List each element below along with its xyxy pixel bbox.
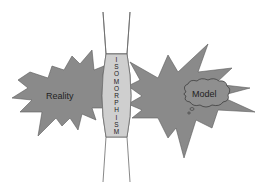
bridge-letter: R (114, 92, 119, 99)
isomorphism-vertical-label: ISOMORPHISM (114, 56, 120, 135)
bridge-letter: I (116, 114, 118, 121)
isomorphism-diagram: Reality Model ISOMORPHISM (0, 0, 269, 189)
bridge-letter: I (116, 56, 118, 63)
bridge-letter: S (114, 63, 119, 70)
bridge-letter: P (114, 99, 118, 106)
bridge-letter: M (114, 78, 119, 85)
thought-bubble-tiny (188, 112, 191, 114)
bridge-top-spike (103, 12, 130, 54)
bridge-letter: O (114, 85, 119, 92)
thought-bubble-small (190, 108, 194, 111)
bridge-bottom-spike (103, 137, 130, 182)
bridge-letter: S (114, 121, 119, 128)
reality-label: Reality (46, 91, 74, 101)
bridge-letter: M (114, 128, 119, 135)
bridge-letter: O (114, 70, 119, 77)
bridge-letter: H (114, 106, 119, 113)
model-label: Model (192, 89, 217, 99)
